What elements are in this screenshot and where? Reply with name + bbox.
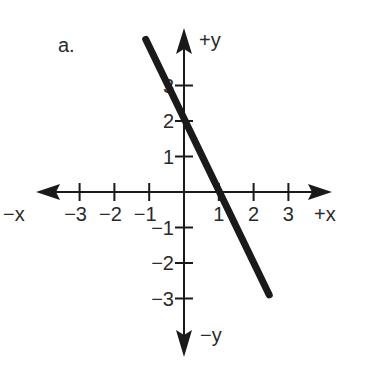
x-axis-positive-label: +x bbox=[314, 203, 336, 225]
y-tick-label: −1 bbox=[151, 217, 174, 239]
y-tick-label: 2 bbox=[163, 110, 174, 132]
x-ticks: −3−2−1123 bbox=[64, 183, 294, 225]
y-axis-negative-label: −y bbox=[200, 324, 222, 346]
x-tick-label: 2 bbox=[248, 203, 259, 225]
y-axis-positive-label: +y bbox=[199, 29, 221, 51]
y-tick-label: −2 bbox=[151, 252, 174, 274]
x-tick-label: −3 bbox=[64, 203, 87, 225]
x-tick-label: −2 bbox=[99, 203, 122, 225]
x-tick-label: 3 bbox=[283, 203, 294, 225]
panel-label: a. bbox=[58, 34, 75, 56]
y-tick-label: 1 bbox=[163, 146, 174, 168]
coordinate-plane: a. −3−2−1123 −3−2−1123 −x +x +y −y bbox=[0, 0, 368, 366]
x-axis-negative-label: −x bbox=[3, 203, 25, 225]
y-tick-label: −3 bbox=[151, 288, 174, 310]
